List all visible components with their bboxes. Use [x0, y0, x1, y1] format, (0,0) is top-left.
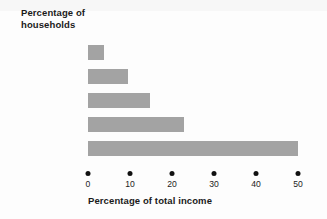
axis-tick-dot-20 [170, 171, 175, 176]
bar-chart-figure: Percentage of households Lowest fifth Se… [0, 0, 327, 219]
axis-tick-dot-50 [296, 171, 301, 176]
bar-middle-fifth [88, 93, 150, 108]
axis-tick-label: 40 [251, 179, 261, 189]
bar-lowest-fifth [88, 45, 104, 60]
bar-highest-fifth [88, 141, 298, 156]
x-axis-title: Percentage of total income [88, 195, 212, 206]
plot-area: Lowest fifth Second fifth Middle fifth N… [0, 0, 327, 219]
axis-tick-label: 30 [209, 179, 219, 189]
bar-second-fifth [88, 69, 128, 84]
axis-tick-dot-30 [212, 171, 217, 176]
axis-tick-dot-40 [254, 171, 259, 176]
axis-tick-label: 20 [167, 179, 177, 189]
bar-next-highest-fifth [88, 117, 184, 132]
axis-tick-label: 50 [293, 179, 303, 189]
axis-tick-label: 0 [86, 179, 91, 189]
axis-tick-dot-10 [128, 171, 133, 176]
axis-tick-label: 10 [125, 179, 135, 189]
axis-tick-dot-0 [86, 171, 91, 176]
